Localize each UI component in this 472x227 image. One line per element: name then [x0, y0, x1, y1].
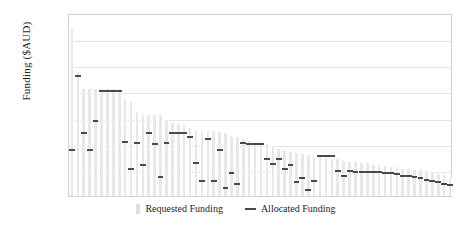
marker-allocated-funding — [282, 168, 288, 170]
bar-requested-funding — [141, 115, 146, 196]
marker-allocated-funding — [75, 75, 81, 77]
marker-allocated-funding — [193, 162, 199, 164]
bar-requested-funding — [430, 172, 435, 196]
bar-requested-funding — [424, 171, 429, 196]
bar-requested-funding — [371, 165, 376, 196]
marker-allocated-funding — [288, 164, 294, 166]
chart-legend: Requested Funding Allocated Funding — [0, 203, 472, 214]
marker-allocated-funding — [246, 143, 252, 145]
marker-allocated-funding — [187, 136, 193, 138]
bar-requested-funding — [383, 166, 388, 196]
bar-requested-funding — [400, 169, 405, 196]
marker-allocated-funding — [164, 142, 170, 144]
bar-requested-funding — [111, 89, 116, 196]
marker-allocated-funding — [234, 183, 240, 185]
marker-allocated-funding — [311, 180, 317, 182]
bar-requested-funding — [135, 112, 140, 196]
bar-requested-funding — [182, 125, 187, 196]
bar-requested-funding — [448, 178, 453, 196]
marker-allocated-funding — [276, 158, 282, 160]
marker-allocated-funding — [335, 170, 341, 172]
bar-requested-funding — [129, 102, 134, 196]
marker-allocated-funding — [223, 187, 229, 189]
bar-requested-funding — [117, 89, 122, 196]
marker-allocated-funding — [294, 181, 300, 183]
bar-requested-funding — [188, 128, 193, 196]
marker-allocated-funding — [152, 143, 158, 145]
requested-swatch-icon — [136, 204, 140, 214]
marker-allocated-funding — [128, 168, 134, 170]
marker-allocated-funding — [122, 141, 128, 143]
bar-requested-funding — [271, 146, 276, 196]
marker-allocated-funding — [146, 132, 152, 134]
bar-requested-funding — [247, 141, 252, 196]
bar-requested-funding — [105, 89, 110, 196]
bar-requested-funding — [99, 89, 104, 196]
bar-requested-funding — [341, 161, 346, 196]
bar-requested-funding — [200, 131, 205, 196]
bar-requested-funding — [164, 120, 169, 196]
allocated-swatch-icon — [245, 208, 256, 210]
marker-allocated-funding — [258, 143, 264, 145]
marker-allocated-funding — [305, 189, 311, 191]
marker-allocated-funding — [329, 155, 335, 157]
marker-allocated-funding — [158, 176, 164, 178]
marker-allocated-funding — [376, 171, 382, 173]
marker-allocated-funding — [270, 163, 276, 165]
marker-allocated-funding — [447, 184, 453, 186]
bar-requested-funding — [300, 154, 305, 196]
bar-requested-funding — [217, 132, 222, 196]
bar-requested-funding — [146, 115, 151, 196]
marker-allocated-funding — [69, 149, 75, 151]
bar-requested-funding — [442, 175, 447, 196]
marker-allocated-funding — [199, 180, 205, 182]
bar-requested-funding — [324, 158, 329, 196]
bar-requested-funding — [359, 163, 364, 196]
bar-requested-funding — [123, 99, 128, 196]
bar-requested-funding — [253, 144, 258, 196]
bar-requested-funding — [353, 162, 358, 196]
bar-requested-funding — [412, 170, 417, 196]
marker-allocated-funding — [134, 142, 140, 144]
bar-requested-funding — [330, 159, 335, 196]
marker-allocated-funding — [181, 132, 187, 134]
marker-allocated-funding — [229, 172, 235, 174]
bar-requested-funding — [288, 152, 293, 196]
legend-label-allocated: Allocated Funding — [261, 203, 336, 214]
marker-allocated-funding — [140, 164, 146, 166]
plot-area — [68, 14, 452, 197]
bar-requested-funding — [176, 124, 181, 196]
bar-requested-funding — [294, 153, 299, 196]
bar-requested-funding — [81, 89, 86, 196]
bar-requested-funding — [229, 136, 234, 196]
bar-requested-funding — [365, 163, 370, 196]
marker-allocated-funding — [87, 149, 93, 151]
bar-requested-funding — [152, 115, 157, 196]
legend-item-allocated: Allocated Funding — [245, 203, 336, 214]
bar-requested-funding — [377, 165, 382, 196]
marker-allocated-funding — [299, 177, 305, 179]
bar-requested-funding — [211, 131, 216, 196]
bar-requested-funding — [158, 115, 163, 196]
bar-requested-funding — [347, 162, 352, 196]
marker-allocated-funding — [116, 90, 122, 92]
bar-requested-funding — [436, 174, 441, 196]
bar-requested-funding — [70, 29, 75, 196]
bar-requested-funding — [76, 72, 81, 196]
marker-allocated-funding — [341, 175, 347, 177]
bar-requested-funding — [170, 123, 175, 196]
bar-requested-funding — [335, 159, 340, 196]
bar-requested-funding — [312, 157, 317, 196]
funding-chart-figure: Funding ($AUD) 20,00040,00060,00080,0001… — [0, 0, 472, 227]
data-series-layer — [69, 15, 451, 196]
legend-item-requested: Requested Funding — [136, 203, 223, 214]
marker-allocated-funding — [81, 132, 87, 134]
bar-requested-funding — [93, 89, 98, 196]
bar-requested-funding — [206, 131, 211, 196]
bar-requested-funding — [395, 167, 400, 196]
bar-requested-funding — [318, 157, 323, 196]
marker-allocated-funding — [93, 120, 99, 122]
bar-requested-funding — [282, 150, 287, 196]
bar-requested-funding — [87, 89, 92, 196]
bar-requested-funding — [259, 144, 264, 196]
